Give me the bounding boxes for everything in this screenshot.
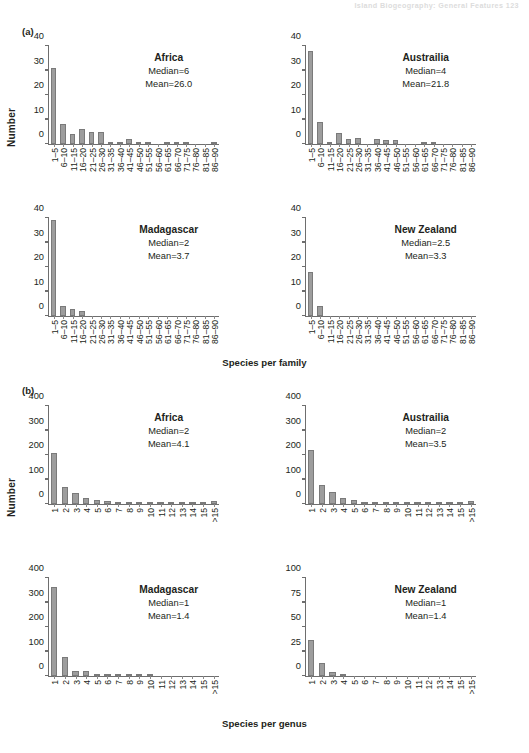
x-tick-label: 31–35 <box>363 320 373 344</box>
x-tick-label: 4 <box>82 680 92 685</box>
x-tick-mark <box>203 676 204 679</box>
x-tick-mark <box>471 676 472 679</box>
x-tick-label: 21–25 <box>345 320 355 344</box>
x-tick-label: 3 <box>72 508 82 513</box>
y-tick-label: 0 <box>296 129 306 139</box>
x-tick-label: 51–55 <box>144 148 154 172</box>
x-tick-label: 8 <box>125 680 135 685</box>
bar-slot <box>317 578 328 676</box>
bar-slot <box>81 578 92 676</box>
chart-mean-stat: Mean=26.0 <box>113 78 225 90</box>
x-tick-label: 6–10 <box>59 320 69 339</box>
bar-slot <box>102 406 113 504</box>
x-tick-label: 41–45 <box>382 320 392 344</box>
histogram-a-austrailia: 0102030401–56–1011–1516–2021–2526–3031–3… <box>305 46 475 144</box>
y-tick-label: 10 <box>291 105 306 115</box>
x-tick-mark <box>192 676 193 679</box>
x-tick-mark <box>418 676 419 679</box>
y-tick-label: 200 <box>285 440 306 450</box>
x-tick-label: 13 <box>435 680 445 690</box>
x-tick-mark <box>92 316 93 319</box>
bar-slot <box>344 218 353 316</box>
x-tick-mark <box>320 316 321 319</box>
x-tick-label: >15 <box>210 508 220 523</box>
x-tick-mark <box>386 504 387 507</box>
x-tick-mark <box>54 316 55 319</box>
x-tick-label: 6 <box>103 680 113 685</box>
x-tick-mark <box>343 676 344 679</box>
x-tick-label: 14 <box>445 508 455 518</box>
x-tick-label: 15 <box>456 680 466 690</box>
bar-slot <box>353 218 362 316</box>
x-tick-mark <box>320 144 321 147</box>
x-tick-mark <box>396 316 397 319</box>
bar-slot <box>334 218 343 316</box>
chart-mean-stat: Mean=3.3 <box>370 250 482 262</box>
x-tick-mark <box>120 316 121 319</box>
bar <box>329 492 335 504</box>
y-tick-label: 30 <box>34 228 49 238</box>
x-tick-mark <box>148 144 149 147</box>
x-tick-label: >15 <box>210 680 220 695</box>
x-tick-mark <box>65 504 66 507</box>
bar-slot <box>325 218 334 316</box>
bar <box>62 657 68 676</box>
x-tick-mark <box>407 504 408 507</box>
y-tick-label: 10 <box>291 277 306 287</box>
bar-slot <box>359 406 370 504</box>
y-tick-label: 40 <box>34 31 49 41</box>
x-tick-mark <box>439 504 440 507</box>
bar <box>89 132 94 144</box>
chart-title: Africa <box>113 52 225 64</box>
x-tick-mark <box>101 144 102 147</box>
bar-slot <box>81 406 92 504</box>
x-tick-label: 3 <box>329 508 339 513</box>
x-tick-mark <box>177 144 178 147</box>
x-tick-label: 7 <box>371 508 381 513</box>
x-tick-mark <box>405 316 406 319</box>
chart-mean-stat: Mean=21.8 <box>370 78 482 90</box>
chart-median-stat: Median=1 <box>370 597 482 609</box>
x-tick-label: 4 <box>339 508 349 513</box>
x-tick-mark <box>358 316 359 319</box>
x-tick-label: 41–45 <box>382 148 392 172</box>
x-tick-label: 10 <box>403 508 413 518</box>
x-tick-mark <box>396 676 397 679</box>
x-tick-label: 13 <box>178 680 188 690</box>
bar <box>70 309 75 316</box>
y-tick-label: 300 <box>285 416 306 426</box>
x-tick-label: 6 <box>360 680 370 685</box>
x-tick-mark <box>471 316 472 319</box>
x-tick-mark <box>434 144 435 147</box>
x-tick-mark <box>415 316 416 319</box>
y-tick-label: 30 <box>34 56 49 66</box>
bar-slot <box>92 578 103 676</box>
x-tick-mark <box>76 676 77 679</box>
x-tick-mark <box>311 504 312 507</box>
x-tick-label: 15 <box>456 508 466 518</box>
bar-slot <box>92 406 103 504</box>
x-tick-mark <box>54 144 55 147</box>
x-tick-mark <box>161 676 162 679</box>
bar <box>51 587 57 676</box>
x-tick-label: 8 <box>125 508 135 513</box>
x-tick-label: 4 <box>82 508 92 513</box>
x-tick-mark <box>139 316 140 319</box>
bar-slot <box>60 578 71 676</box>
y-tick-label: 75 <box>291 588 306 598</box>
x-tick-mark <box>339 144 340 147</box>
x-tick-mark <box>375 504 376 507</box>
x-tick-label: 6 <box>360 508 370 513</box>
x-tick-mark <box>424 316 425 319</box>
x-tick-mark <box>428 676 429 679</box>
x-tick-mark <box>311 316 312 319</box>
x-tick-label: 2 <box>61 508 71 513</box>
x-tick-mark <box>120 144 121 147</box>
y-tick-label: 0 <box>39 301 49 311</box>
x-tick-mark <box>129 316 130 319</box>
x-tick-mark <box>428 504 429 507</box>
x-tick-mark <box>407 676 408 679</box>
x-tick-label: 12 <box>424 680 434 690</box>
x-tick-mark <box>471 144 472 147</box>
x-tick-label: 5 <box>350 508 360 513</box>
